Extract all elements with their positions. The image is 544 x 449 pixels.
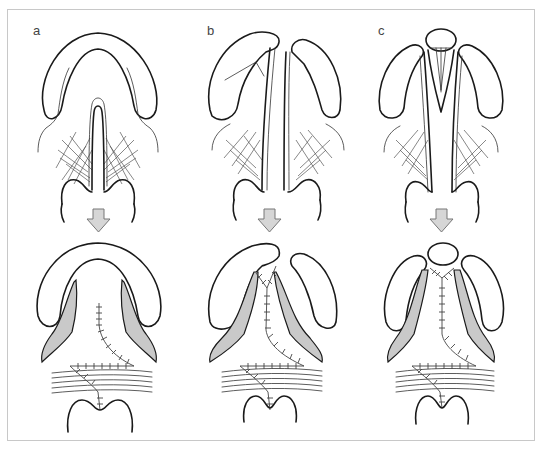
muscle-fibers-right-icon (294, 130, 332, 180)
panel-c-before (379, 29, 503, 222)
muscle-fibers-right-icon (454, 130, 488, 180)
panel-c-after (385, 243, 504, 424)
muscle-fibers-left-icon (224, 130, 262, 180)
diagram-canvas (0, 0, 544, 449)
down-arrow-c-icon (430, 209, 453, 232)
down-arrow-b-icon (258, 209, 281, 232)
muscle-fibers-right-icon (104, 132, 140, 184)
panel-a-before (38, 33, 158, 222)
panel-b-after (209, 244, 337, 422)
muscle-fibers-left-icon (394, 130, 428, 180)
down-arrow-a-icon (87, 209, 110, 232)
panel-b-before (209, 32, 344, 220)
panel-a-after (37, 243, 161, 432)
muscle-fibers-left-icon (56, 132, 92, 184)
